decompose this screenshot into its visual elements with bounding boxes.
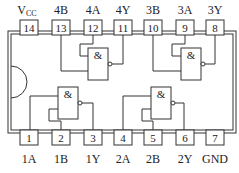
pin-9-label: 3A	[178, 3, 193, 17]
pin-13: 13	[52, 20, 70, 35]
bottom-pins: 1 2 3 4 5 6 7	[20, 130, 224, 145]
svg-text:5: 5	[150, 132, 156, 144]
svg-text:7: 7	[212, 132, 218, 144]
pin-4: 4	[114, 130, 132, 145]
svg-text:10: 10	[148, 22, 160, 34]
svg-text:2: 2	[58, 132, 64, 144]
ic-pinout-diagram: & & & & 14 13 12 11 10 9 8 VCC 4B 4A 4Y …	[0, 0, 239, 173]
pin-2: 2	[52, 130, 70, 145]
pin-8-label: 3Y	[208, 3, 223, 17]
ic-notch	[11, 66, 27, 98]
gate-4	[61, 35, 123, 80]
pin-8: 8	[206, 20, 224, 35]
gate-2-symbol: &	[157, 88, 166, 100]
gate-1	[30, 87, 93, 130]
pin-3: 3	[84, 130, 102, 145]
ic-body-outer	[8, 31, 236, 133]
pin-5: 5	[144, 130, 162, 145]
gate-2	[123, 87, 184, 130]
svg-text:13: 13	[56, 22, 68, 34]
pin-11-label: 4Y	[116, 3, 131, 17]
svg-text:3: 3	[90, 132, 96, 144]
svg-text:6: 6	[182, 132, 188, 144]
bottom-labels: 1A 1B 1Y 2A 2B 2Y GND	[22, 152, 229, 166]
svg-text:4: 4	[120, 132, 126, 144]
pin-13-label: 4B	[54, 3, 68, 17]
svg-text:1: 1	[26, 132, 32, 144]
pin-4-label: 2A	[116, 152, 131, 166]
svg-text:9: 9	[182, 22, 188, 34]
svg-text:8: 8	[212, 22, 218, 34]
pin-5-label: 2B	[146, 152, 160, 166]
gate-3-symbol: &	[187, 49, 196, 61]
pin-6: 6	[176, 130, 194, 145]
pin-7: 7	[206, 130, 224, 145]
pin-9: 9	[176, 20, 194, 35]
pin-2-label: 1B	[54, 152, 68, 166]
pin-11: 11	[114, 20, 132, 35]
pin-12-label: 4A	[86, 3, 101, 17]
top-pins: 14 13 12 11 10 9 8	[20, 20, 224, 35]
pin-10: 10	[144, 20, 162, 35]
pin-1-label: 1A	[22, 152, 37, 166]
pin-6-label: 2Y	[178, 152, 193, 166]
gate-1-symbol: &	[64, 88, 73, 100]
pin-12: 12	[84, 20, 102, 35]
gate-4-symbol: &	[94, 49, 103, 61]
svg-text:12: 12	[88, 22, 99, 34]
svg-text:14: 14	[24, 22, 36, 34]
top-labels: VCC 4B 4A 4Y 3B 3A 3Y	[17, 3, 222, 18]
pin-10-label: 3B	[146, 3, 160, 17]
pin-7-label: GND	[202, 152, 228, 166]
pin-14-label: VCC	[17, 3, 36, 18]
gate-3	[153, 35, 215, 80]
pin-3-label: 1Y	[86, 152, 101, 166]
pin-14: 14	[20, 20, 38, 35]
svg-text:11: 11	[118, 22, 129, 34]
pin-1: 1	[20, 130, 38, 145]
